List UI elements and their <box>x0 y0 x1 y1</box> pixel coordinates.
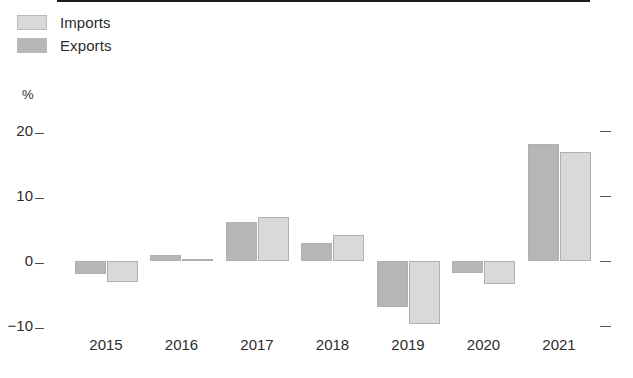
y-axis-tick-mark <box>35 263 44 264</box>
y-axis-tick-value: −10 <box>8 317 33 334</box>
y-axis-tick-label: 10 <box>0 188 44 203</box>
y-axis-right-tick-mark <box>600 131 611 132</box>
bar-imports-2021 <box>560 152 591 261</box>
bar-exports-2020 <box>452 261 483 273</box>
bar-exports-2019 <box>377 261 408 307</box>
x-axis-label-2016: 2016 <box>152 337 212 352</box>
y-axis-tick-value: 20 <box>16 122 33 139</box>
y-axis-tick-value: 0 <box>25 252 33 269</box>
bar-chart-plot: % 20100−10 2015201620172018201920202021 <box>0 0 633 378</box>
y-axis-tick-label: −10 <box>0 318 44 333</box>
bar-imports-2019 <box>409 261 440 324</box>
y-axis-tick-mark <box>35 198 44 199</box>
bar-exports-2015 <box>75 261 106 274</box>
bar-imports-2018 <box>333 235 364 261</box>
bar-exports-2018 <box>301 243 332 261</box>
y-axis-tick-mark <box>35 328 44 329</box>
x-axis-label-2020: 2020 <box>454 337 514 352</box>
y-axis-right-tick-mark <box>600 261 611 262</box>
zero-baseline <box>57 0 590 2</box>
bar-imports-2020 <box>484 261 515 284</box>
y-axis-right-tick-mark <box>600 196 611 197</box>
y-axis-right-tick-mark <box>600 326 611 327</box>
x-axis-label-2017: 2017 <box>227 337 287 352</box>
bar-exports-2021 <box>528 144 559 261</box>
y-axis-unit-label: % <box>22 88 34 101</box>
x-axis-label-2015: 2015 <box>76 337 136 352</box>
bar-imports-2015 <box>107 261 138 282</box>
y-axis-tick-label: 0 <box>0 253 44 268</box>
y-axis-tick-value: 10 <box>16 187 33 204</box>
bar-exports-2016 <box>150 255 181 262</box>
y-axis-tick-label: 20 <box>0 123 44 138</box>
x-axis-label-2021: 2021 <box>529 337 589 352</box>
x-axis-label-2018: 2018 <box>303 337 363 352</box>
y-axis-tick-mark <box>35 133 44 134</box>
x-axis-label-2019: 2019 <box>378 337 438 352</box>
bar-imports-2016 <box>182 259 213 261</box>
bar-exports-2017 <box>226 222 257 261</box>
bar-imports-2017 <box>258 217 289 261</box>
